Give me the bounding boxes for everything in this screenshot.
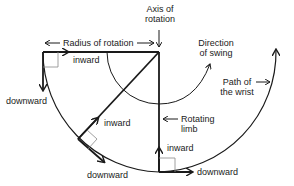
direction-of-swing-line2: of swing <box>192 48 240 58</box>
downward-label-left: downward <box>6 96 47 106</box>
axis-of-rotation-line2: rotation <box>140 14 180 24</box>
axis-of-rotation-line1: Axis of <box>140 4 180 14</box>
path-of-wrist-line2: the wrist <box>215 87 259 97</box>
inward-label-bottom: inward <box>167 143 194 153</box>
axis-of-rotation-label: Axis of rotation <box>140 4 180 24</box>
radius-of-rotation-label: Radius of rotation <box>63 38 134 48</box>
rotating-limb-label: Rotating limb <box>181 114 215 134</box>
inward-label-middle: inward <box>104 118 131 128</box>
direction-of-swing-label: Direction of swing <box>192 38 240 58</box>
path-of-wrist-line1: Path of <box>215 77 259 87</box>
downward-label-middle: downward <box>87 170 128 180</box>
inward-arrow-middle <box>78 118 98 139</box>
downward-arrow-middle <box>78 139 104 162</box>
path-of-wrist-label: Path of the wrist <box>215 77 259 97</box>
downward-label-bottom: downward <box>197 167 238 177</box>
rotating-limb-line2: limb <box>181 124 215 134</box>
right-angle-marker-top <box>43 52 58 67</box>
right-angle-marker-bottom <box>159 158 175 172</box>
inward-label-top: inward <box>73 55 100 65</box>
direction-of-swing-line1: Direction <box>192 38 240 48</box>
rotating-limb-line1: Rotating <box>181 114 215 124</box>
